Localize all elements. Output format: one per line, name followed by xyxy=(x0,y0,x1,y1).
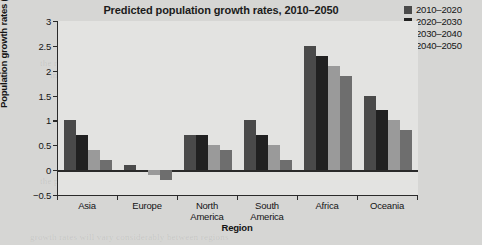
y-axis-tick xyxy=(53,46,58,47)
y-axis-tick-label: 3 xyxy=(46,16,51,27)
bar xyxy=(316,56,328,170)
legend-label: 2020–2030 xyxy=(416,17,462,27)
bar xyxy=(76,135,88,170)
y-axis-tick xyxy=(53,21,58,22)
bar xyxy=(244,120,256,170)
y-axis-tick-label: 1 xyxy=(46,115,51,126)
bar xyxy=(400,130,412,170)
zero-baseline xyxy=(58,170,418,171)
bar xyxy=(184,135,196,170)
bleed-text: growth rates will vary considerably betw… xyxy=(30,232,229,242)
y-axis-title: Population growth rates (%) xyxy=(0,0,9,108)
y-axis-tick xyxy=(53,170,58,171)
chart-title: Predicted population growth rates, 2010–… xyxy=(56,4,386,16)
bar xyxy=(256,135,268,170)
y-axis-tick xyxy=(53,145,58,146)
bar xyxy=(88,150,100,170)
bar xyxy=(304,46,316,170)
bar xyxy=(196,135,208,170)
y-axis-tick-label: 0.5 xyxy=(38,140,51,151)
y-axis-tick-label: 1.5 xyxy=(38,90,51,101)
bar xyxy=(208,145,220,170)
y-axis-tick-label: 2.5 xyxy=(38,40,51,51)
bar xyxy=(64,120,76,170)
y-axis-tick-label: 0 xyxy=(46,165,51,176)
legend-item: 2010–2020 xyxy=(404,4,478,15)
y-axis-tick xyxy=(53,120,58,121)
bar xyxy=(220,150,232,170)
bar xyxy=(376,110,388,170)
y-axis-tick xyxy=(53,96,58,97)
y-axis-tick-label: 2 xyxy=(46,65,51,76)
bar xyxy=(340,76,352,170)
bar xyxy=(148,170,160,175)
x-axis-category-label: Oceania xyxy=(347,200,427,211)
y-axis-tick-label: −0.5 xyxy=(33,190,51,201)
legend-label: 2040–2050 xyxy=(416,41,462,51)
bar xyxy=(280,160,292,170)
bar xyxy=(160,170,172,180)
bar xyxy=(364,96,376,171)
chart-figure: most of the population across the develo… xyxy=(0,0,482,245)
y-axis-tick xyxy=(53,71,58,72)
plot-area: −0.500.511.522.53 xyxy=(57,21,418,195)
bar xyxy=(268,145,280,170)
bar xyxy=(100,160,112,170)
x-axis-title: Region xyxy=(57,222,417,233)
bar xyxy=(124,165,136,170)
bar xyxy=(388,120,400,170)
bar xyxy=(328,66,340,170)
legend-label: 2030–2040 xyxy=(416,29,462,39)
legend-swatch-icon xyxy=(404,6,412,14)
legend-label: 2010–2020 xyxy=(416,5,462,15)
